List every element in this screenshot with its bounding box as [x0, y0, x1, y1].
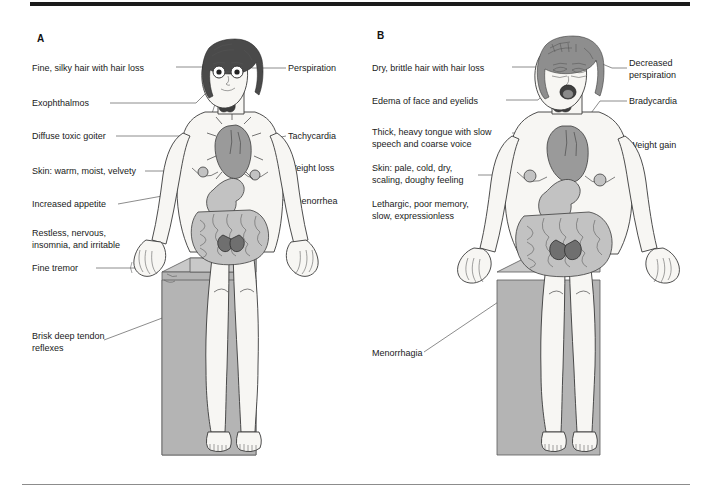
head-b [535, 36, 604, 110]
figure-page: A B Fine, silky hair with hair loss Exop… [0, 0, 712, 495]
head-a [202, 39, 263, 108]
label-edema-face-eyelids: Edema of face and eyelids [372, 96, 478, 108]
neck-thyroid-b [552, 92, 582, 114]
label-brisk-deep-tendon-reflexes: Brisk deep tendon reflexes [32, 331, 105, 354]
top-rule [30, 2, 690, 6]
label-weight-loss: Weight loss [288, 163, 334, 175]
label-increased-appetite: Increased appetite [32, 199, 106, 211]
legs-b [541, 252, 598, 452]
label-diffuse-toxic-goiter: Diffuse toxic goiter [32, 131, 106, 143]
label-menorrhagia: Menorrhagia [372, 348, 423, 360]
organs-b [516, 126, 612, 277]
label-bradycardia: Bradycardia [629, 96, 677, 108]
label-decreased-perspiration: Decreased perspiration [629, 58, 676, 81]
pedestal-block-a [162, 258, 256, 455]
label-dry-brittle-hair: Dry, brittle hair with hair loss [372, 63, 484, 75]
organs-a [191, 112, 268, 265]
label-skin-warm-moist-velvety: Skin: warm, moist, velvety [32, 166, 136, 178]
label-weight-gain: Weight gain [629, 140, 676, 152]
label-thick-heavy-tongue: Thick, heavy tongue with slow speech and… [372, 127, 492, 150]
legs-a [206, 250, 261, 452]
label-amenorrhea: Amenorrhea [288, 196, 338, 208]
panel-letter-a: A [37, 33, 45, 44]
label-exophthalmos: Exophthalmos [32, 98, 89, 110]
label-fine-silky-hair: Fine, silky hair with hair loss [32, 63, 144, 75]
tachycardia-rays [207, 112, 263, 189]
intestine-folds [200, 214, 262, 258]
panel-letter-b: B [377, 30, 385, 41]
label-fine-tremor: Fine tremor [32, 263, 78, 275]
bottom-rule [22, 484, 690, 485]
pedestal-block-b [497, 258, 600, 455]
label-restless-nervous: Restless, nervous, insomnia, and irritab… [32, 228, 120, 251]
label-lethargic-poor-memory: Lethargic, poor memory, slow, expression… [372, 199, 469, 222]
neck-thyroid-a [218, 92, 244, 114]
label-tachycardia: Tachycardia [288, 131, 336, 143]
intestine-folds [527, 218, 602, 268]
panel-a-leader-lines [96, 58, 286, 340]
label-skin-pale-cold-dry: Skin: pale, cold, dry, scaling, doughy f… [372, 163, 464, 186]
panel-a-figure [96, 39, 318, 455]
label-perspiration: Perspiration [288, 63, 336, 75]
